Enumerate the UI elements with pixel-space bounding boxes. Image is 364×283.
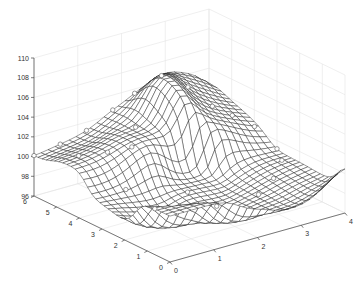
y-tick bbox=[76, 218, 79, 220]
z-tick-label: 110 bbox=[18, 55, 29, 62]
data-point-marker bbox=[185, 190, 189, 194]
y-tick-label: 6 bbox=[23, 198, 27, 205]
x-tick-label: 3 bbox=[305, 230, 309, 237]
z-tick-label: 104 bbox=[17, 114, 29, 121]
data-point-marker bbox=[32, 153, 36, 157]
data-point-marker bbox=[159, 73, 163, 77]
data-point-marker bbox=[130, 145, 134, 149]
y-tick-label: 0 bbox=[159, 264, 163, 271]
y-tick-label: 2 bbox=[114, 242, 118, 249]
data-point-marker bbox=[215, 204, 219, 208]
data-point-marker bbox=[77, 154, 81, 158]
z-tick-label: 98 bbox=[21, 173, 29, 180]
data-point-marker bbox=[133, 125, 137, 129]
x-tick bbox=[170, 262, 172, 265]
data-point-marker bbox=[132, 91, 136, 95]
x-tick bbox=[301, 225, 303, 228]
surface-plot-figure: 9698100102104106108110012345601234 bbox=[0, 0, 364, 283]
y-tick bbox=[99, 229, 102, 231]
y-tick-label: 5 bbox=[46, 209, 50, 216]
x-tick-label: 4 bbox=[349, 218, 353, 225]
y-tick-label: 3 bbox=[91, 231, 95, 238]
y-tick bbox=[122, 240, 125, 242]
data-point-marker bbox=[271, 176, 275, 180]
mesh-surface bbox=[34, 72, 345, 228]
data-point-marker bbox=[186, 85, 190, 89]
data-point-marker bbox=[256, 192, 260, 196]
data-point-marker bbox=[230, 113, 234, 117]
x-tick bbox=[214, 250, 216, 253]
y-tick bbox=[144, 251, 147, 253]
x-tick-label: 2 bbox=[262, 243, 266, 250]
data-point-marker bbox=[111, 108, 115, 112]
surface-plot-canvas: 9698100102104106108110012345601234 bbox=[0, 0, 364, 283]
x-tick-label: 1 bbox=[218, 255, 222, 262]
y-tick-label: 4 bbox=[68, 220, 72, 227]
data-point-marker bbox=[105, 150, 109, 154]
x-tick bbox=[258, 238, 260, 241]
data-point-marker bbox=[275, 147, 279, 151]
z-tick-label: 100 bbox=[17, 153, 29, 160]
data-point-marker bbox=[280, 158, 284, 162]
y-tick bbox=[54, 207, 57, 209]
y-tick-label: 1 bbox=[136, 253, 140, 260]
data-point-marker bbox=[84, 128, 88, 132]
data-point-marker bbox=[153, 207, 157, 211]
data-point-marker bbox=[58, 142, 62, 146]
z-tick-label: 102 bbox=[17, 133, 29, 140]
data-point-marker bbox=[124, 187, 128, 191]
data-point-marker bbox=[252, 124, 256, 128]
data-point-marker bbox=[210, 104, 214, 108]
z-tick-label: 106 bbox=[17, 94, 29, 101]
x-tick bbox=[345, 213, 347, 216]
y-tick bbox=[167, 262, 170, 264]
z-tick-label: 108 bbox=[17, 74, 29, 81]
x-tick-label: 0 bbox=[174, 267, 178, 274]
